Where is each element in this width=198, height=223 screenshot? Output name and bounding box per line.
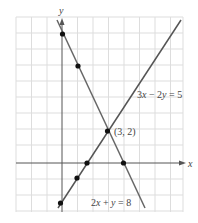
x-axis-label: x	[187, 158, 193, 169]
y-axis-arrow-icon	[60, 18, 65, 25]
point-0-neg2.5	[58, 200, 63, 205]
line2-label: 2x + y = 8	[91, 197, 131, 208]
grid	[16, 17, 183, 212]
intersection-label: (3, 2)	[114, 126, 136, 138]
point-0-8	[60, 31, 65, 36]
point-1-6	[75, 63, 80, 68]
line-2x-y-8	[57, 20, 145, 208]
point-4-0	[121, 160, 126, 165]
point-3-2	[105, 128, 110, 133]
line1-label: 3x − 2y = 5	[137, 89, 182, 100]
y-axis-label: y	[58, 5, 64, 16]
point-2-0.5	[84, 160, 89, 165]
point-1-neg1	[74, 175, 79, 180]
graph: x y 3x − 2y = 5 2x + y = 8 (3, 2)	[0, 0, 198, 223]
